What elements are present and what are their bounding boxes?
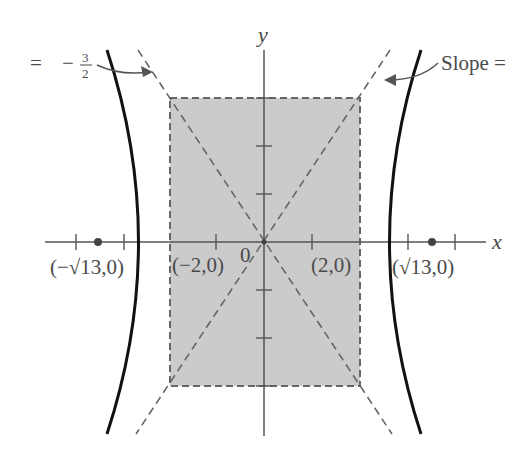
left-focus-dot	[94, 238, 102, 246]
x-axis-label: x	[491, 229, 502, 254]
origin-label: 0	[240, 243, 251, 267]
right-focus-label: (√13,0)	[392, 255, 454, 279]
left-slope-sign: −	[62, 51, 74, 75]
hyperbola-figure: y x 0 (−√13,0) (−2,0) (2,0) (√13,0) = − …	[0, 0, 532, 460]
left-slope-denominator: 2	[82, 66, 89, 81]
left-slope-equals: =	[30, 51, 42, 75]
right-focus-dot	[428, 238, 436, 246]
left-slope-arrowhead	[141, 66, 153, 77]
right-vertex-label: (2,0)	[311, 253, 351, 277]
left-slope-numerator: 3	[82, 50, 89, 65]
origin-dot	[262, 240, 267, 245]
right-slope-arrowhead	[384, 74, 396, 86]
right-slope-label: Slope =	[441, 51, 506, 75]
left-vertex-label: (−2,0)	[172, 253, 224, 277]
y-axis-label: y	[256, 22, 268, 47]
left-focus-label: (−√13,0)	[50, 255, 124, 279]
